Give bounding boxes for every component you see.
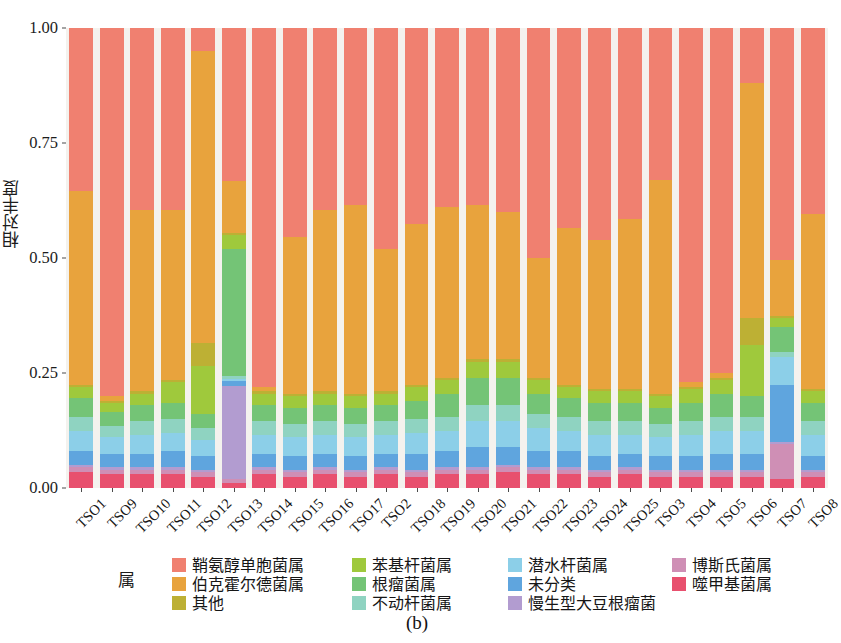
bar-segment [100,28,124,396]
legend-label: 苯基杆菌属 [372,557,452,574]
stacked-bar[interactable] [679,28,703,488]
stacked-bar[interactable] [161,28,185,488]
stacked-bar[interactable] [466,28,490,488]
stacked-bar[interactable] [740,28,764,488]
x-tick-mark [691,488,692,492]
stacked-bar[interactable] [649,28,673,488]
bar-segment [466,421,490,446]
bar-segment [649,180,673,394]
legend-item[interactable]: 不动杆菌属 [352,594,452,612]
stacked-bar[interactable] [374,28,398,488]
bar-segment [252,394,276,406]
bar-segment [588,240,612,390]
bar-segment [161,382,185,403]
stacked-bar[interactable] [435,28,459,488]
bar-slot [462,28,492,488]
bar-slot [737,28,767,488]
bar-segment [618,435,642,453]
bar-segment [710,394,734,417]
legend-item[interactable]: 鞘氨醇单胞菌属 [172,556,304,574]
bar-segment [252,405,276,421]
bar-slot [249,28,279,488]
bar-segment [740,345,764,396]
bar-slot [401,28,431,488]
bar-segment [69,472,93,488]
bar-segment [191,366,215,414]
legend: 属 鞘氨醇单胞菌属伯克霍尔德菌属其他 苯基杆菌属根瘤菌属不动杆菌属 潜水杆菌属未… [0,552,834,614]
legend-item[interactable]: 慢生型大豆根瘤菌 [508,594,656,612]
stacked-bar[interactable] [527,28,551,488]
legend-item[interactable]: 苯基杆菌属 [352,556,452,574]
stacked-bar[interactable] [313,28,337,488]
x-label-cell: TSO20 [462,494,492,550]
bar-segment [649,28,673,180]
bar-segment [435,28,459,207]
legend-item[interactable]: 潜水杆菌属 [508,556,656,574]
legend-item[interactable]: 噬甲基菌属 [672,575,772,593]
bar-slot [340,28,370,488]
x-tick-mark [660,488,661,492]
bar-segment [100,454,124,468]
stacked-bar[interactable] [69,28,93,488]
y-axis-ticks: 0.000.250.500.751.00 [18,0,66,552]
bar-segment [588,391,612,403]
legend-item[interactable]: 博斯氏菌属 [672,556,772,574]
legend-label: 不动杆菌属 [372,595,452,612]
bar-segment [710,380,734,394]
bar-segment [344,477,368,489]
stacked-bar[interactable] [252,28,276,488]
x-tick-mark [782,488,783,492]
legend-label: 其他 [192,595,224,612]
bar-segment [283,437,307,455]
stacked-bar[interactable] [191,28,215,488]
legend-item[interactable]: 未分类 [508,575,656,593]
x-label-cell: TSO25 [615,494,645,550]
legend-item[interactable]: 其他 [172,594,304,612]
x-tick-mark [142,488,143,492]
stacked-bar[interactable] [588,28,612,488]
stacked-bar[interactable] [405,28,429,488]
stacked-bar[interactable] [283,28,307,488]
bar-segment [252,454,276,468]
bar-slot [554,28,584,488]
bar-segment [618,28,642,219]
stacked-bar[interactable] [130,28,154,488]
bar-segment [588,421,612,435]
stacked-bar[interactable] [618,28,642,488]
bar-segment [496,28,520,212]
x-label-cell: TSO2 [371,494,401,550]
legend-label: 噬甲基菌属 [692,576,772,593]
bar-segment [649,408,673,424]
bar-segment [405,477,429,489]
stacked-bar[interactable] [496,28,520,488]
bar-segment [496,421,520,446]
bar-segment [496,378,520,406]
bar-segment [374,474,398,488]
bar-segment [69,431,93,452]
x-label-cell: TSO21 [493,494,523,550]
bar-segment [801,28,825,214]
stacked-bar[interactable] [801,28,825,488]
legend-item[interactable]: 伯克霍尔德菌属 [172,575,304,593]
legend-label: 鞘氨醇单胞菌属 [192,557,304,574]
bar-segment [740,83,764,318]
bar-segment [191,343,215,366]
bar-segment [191,28,215,51]
bar-segment [435,431,459,452]
stacked-bar[interactable] [100,28,124,488]
stacked-bar[interactable] [344,28,368,488]
stacked-bar[interactable] [710,28,734,488]
stacked-bar[interactable] [770,28,794,488]
stacked-bar[interactable] [557,28,581,488]
bar-segment [649,424,673,438]
stacked-bar[interactable] [222,28,246,488]
bar-segment [130,394,154,406]
x-tick-mark [81,488,82,492]
x-label-cell: TSO1 [66,494,96,550]
legend-item[interactable]: 根瘤菌属 [352,575,452,593]
bar-segment [252,435,276,453]
bar-segment [313,421,337,435]
legend-swatch-icon [352,558,366,572]
bar-segment [130,28,154,210]
legend-swatch-icon [172,596,186,610]
